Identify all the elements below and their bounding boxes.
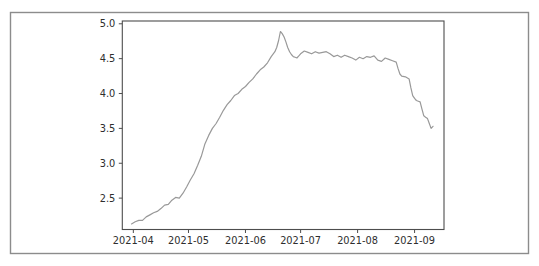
y-tick-label: 5.0: [100, 18, 116, 29]
x-axis: 2021-042021-052021-062021-072021-082021-…: [113, 230, 435, 247]
x-tick-label: 2021-04: [113, 235, 154, 246]
y-tick-label: 2.5: [100, 193, 116, 204]
screenshot-root: 2.53.03.54.04.55.0 2021-042021-052021-06…: [0, 0, 539, 266]
y-tick-label: 3.0: [100, 158, 116, 169]
y-tick-label: 4.5: [100, 53, 116, 64]
plot-area-background: [122, 21, 444, 230]
x-tick-label: 2021-09: [394, 235, 435, 246]
line-chart-canvas: 2.53.03.54.04.55.0 2021-042021-052021-06…: [0, 0, 539, 266]
x-tick-label: 2021-07: [280, 235, 321, 246]
x-tick-label: 2021-08: [337, 235, 378, 246]
x-tick-label: 2021-05: [168, 235, 209, 246]
y-tick-label: 3.5: [100, 123, 116, 134]
x-tick-label: 2021-06: [225, 235, 266, 246]
y-axis: 2.53.03.54.04.55.0: [100, 18, 123, 203]
y-tick-label: 4.0: [100, 88, 116, 99]
